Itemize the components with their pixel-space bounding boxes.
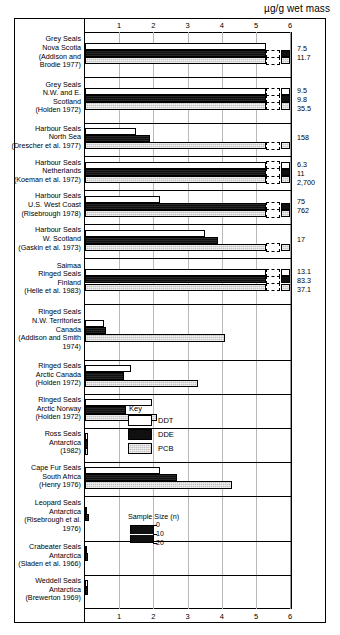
sample-size-graphic: 0 10 20 xyxy=(128,523,208,547)
category-label-line: (1982) xyxy=(0,447,81,456)
bar-ddt xyxy=(85,162,266,169)
value-label: 17 xyxy=(297,235,305,244)
category-label-line: (Brewerton 1969) xyxy=(0,594,81,603)
category-label-line: (Drescher et al. 1977) xyxy=(0,142,81,151)
value-label: 75 xyxy=(297,197,309,206)
group-separator xyxy=(85,258,292,259)
x-tick-bottom-2: 2 xyxy=(151,612,155,621)
category-label-line: (Holden 1972) xyxy=(0,106,81,115)
axis-break-marker xyxy=(266,176,280,184)
axis-break-marker xyxy=(266,57,280,65)
category-label-line: 1974) xyxy=(0,343,81,352)
legend-item-ddt: DDT xyxy=(128,415,202,426)
bar-ddt xyxy=(85,43,266,50)
bar-stub-ddt xyxy=(281,269,290,276)
value-label: 11.7 xyxy=(297,53,310,62)
gridline-1 xyxy=(119,32,120,609)
x-tick-bottom-5: 5 xyxy=(254,612,258,621)
bar-pcb xyxy=(85,284,266,291)
group-separator xyxy=(85,156,292,157)
group-separator xyxy=(85,123,292,124)
bar-stub-pcb xyxy=(281,102,290,109)
bar-ddt xyxy=(85,546,87,553)
legend-key-title: Key xyxy=(128,404,202,413)
bar-pcb xyxy=(85,448,88,455)
category-label: Ringed SealsN.W. TerritoriesCanada(Addis… xyxy=(0,308,84,351)
bar-stub-pcb xyxy=(281,57,290,64)
legend-item-pcb: PCB xyxy=(128,443,202,454)
value-label-group: 7.511.7 xyxy=(297,44,310,62)
bar-dde xyxy=(85,276,266,283)
category-label: SaimaaRinged SealsFinland(Helle et al. 1… xyxy=(0,262,84,296)
x-tick-top-2: 2 xyxy=(151,21,155,30)
bar-pcb xyxy=(85,380,198,387)
group-separator xyxy=(85,77,292,78)
category-label: Harbour SealsNorth Sea(Drescher et al. 1… xyxy=(0,125,84,151)
bar-stub-dde xyxy=(281,203,290,210)
sample-size-title: Sample Size (n) xyxy=(128,512,214,521)
category-label-line: 1976) xyxy=(0,525,81,534)
x-tick-top-4: 4 xyxy=(220,21,224,30)
bar-pcb xyxy=(85,176,266,183)
value-label-group: 6.3112,700 xyxy=(297,160,315,187)
bar-ddt xyxy=(85,88,266,95)
axis-break-marker xyxy=(266,142,280,150)
value-label-group: 9.59.835.5 xyxy=(297,86,311,113)
category-label: Harbour SealsW. Scotland(Gaskin et al. 1… xyxy=(0,226,84,252)
bar-dde xyxy=(85,95,266,102)
bar-ddt xyxy=(85,467,160,474)
value-label-group: 158 xyxy=(297,133,309,142)
x-tick-bottom-1: 1 xyxy=(117,612,121,621)
category-label: Leopard SealsAntarctica(Risebrough et al… xyxy=(0,499,84,533)
category-label-line: (Helle et al. 1983) xyxy=(0,287,81,296)
value-label: 2,700 xyxy=(297,178,315,187)
bar-ddt xyxy=(85,365,131,372)
legend-key: Key DDT DDE PCB xyxy=(128,404,202,457)
bar-dde xyxy=(85,440,88,447)
x-tick-top-1: 1 xyxy=(117,21,121,30)
value-label: 11 xyxy=(297,169,315,178)
group-separator xyxy=(85,496,292,497)
bar-ddt xyxy=(85,507,87,514)
bar-ddt xyxy=(85,269,266,276)
value-label: 158 xyxy=(297,133,309,142)
x-tick-bottom-4: 4 xyxy=(220,612,224,621)
value-label: 83.3 xyxy=(297,276,311,285)
category-label-line: (Holden 1972) xyxy=(0,379,81,388)
group-separator xyxy=(85,462,292,463)
axis-break-marker xyxy=(266,209,280,217)
legend-swatch-pcb-icon xyxy=(128,443,152,454)
bar-dde xyxy=(85,406,126,413)
category-label: Cape Fur SealsSouth Africa(Henry 1976) xyxy=(0,464,84,490)
group-separator xyxy=(85,394,292,395)
x-tick-bottom-3: 3 xyxy=(186,612,190,621)
bar-pcb xyxy=(85,481,232,488)
category-label: Grey SealsN.W. and E.Scotland(Holden 197… xyxy=(0,81,84,115)
bar-dde xyxy=(85,553,88,560)
bar-stub-ddt xyxy=(281,88,290,95)
bar-dde xyxy=(85,587,88,594)
value-label-group: 75762 xyxy=(297,197,309,215)
bar-ddt xyxy=(85,320,104,327)
bar-ddt xyxy=(85,196,160,203)
bar-pcb xyxy=(85,334,225,341)
bar-dde xyxy=(85,203,266,210)
gridline-4 xyxy=(222,32,223,609)
value-label: 6.3 xyxy=(297,160,315,169)
legend-swatch-ddt-icon xyxy=(128,415,152,426)
category-label: Weddell SealsAntarctica(Brewerton 1969) xyxy=(0,577,84,603)
bar-stub-pcb xyxy=(281,284,290,291)
bar-stub-dde xyxy=(281,95,290,102)
bar-dde xyxy=(85,474,177,481)
bar-ddt xyxy=(85,433,88,440)
group-separator xyxy=(85,190,292,191)
legend-label-pcb: PCB xyxy=(158,444,173,453)
sample-size-tick-10: 10 xyxy=(156,530,164,537)
axis-unit-title: µg/g wet mass xyxy=(264,3,330,14)
gridline-5 xyxy=(256,32,257,609)
bar-stub-pcb xyxy=(281,176,290,183)
category-label: Ross SealsAntarctica(1982) xyxy=(0,430,84,456)
bar-dde xyxy=(85,169,266,176)
group-separator xyxy=(85,224,292,225)
category-label-line: Brodie 1977) xyxy=(0,61,81,70)
